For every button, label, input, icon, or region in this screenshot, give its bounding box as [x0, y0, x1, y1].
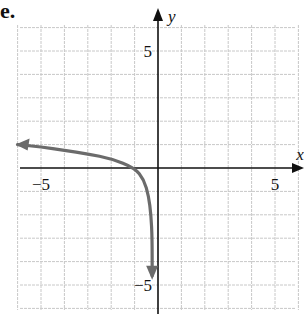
y-axis-arrow-icon [153, 8, 163, 21]
y-axis-label: y [166, 7, 176, 26]
y-tick-label: 5 [144, 42, 153, 61]
curve-line [18, 145, 153, 276]
graph: xy−555−5 [0, 0, 304, 318]
y-tick-label: −5 [134, 276, 152, 295]
curve-series [16, 139, 159, 280]
axes [20, 8, 304, 314]
x-tick-label: 5 [271, 175, 280, 194]
curve-start-arrow-icon [16, 139, 30, 151]
x-tick-label: −5 [32, 175, 50, 194]
x-axis-label: x [295, 145, 304, 164]
